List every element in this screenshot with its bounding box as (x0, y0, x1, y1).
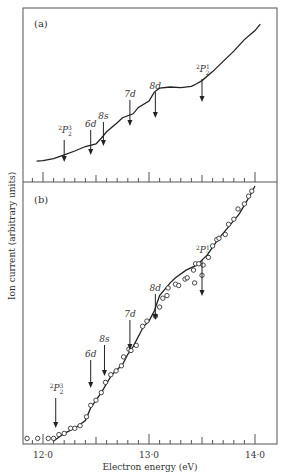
data-point (236, 207, 240, 211)
data-point (242, 202, 246, 206)
y-axis-label: Ion current (arbitrary units) (7, 172, 17, 300)
a-2p12-arrow-head (200, 96, 205, 102)
panel-b-label: (b) (34, 194, 48, 205)
data-point (109, 373, 113, 377)
plot-frame (23, 8, 277, 444)
data-point (57, 432, 61, 436)
data-point (129, 348, 133, 352)
data-point (36, 436, 40, 440)
data-point (166, 286, 170, 290)
data-point (210, 244, 214, 248)
x-tick-label-13: 13·0 (139, 450, 159, 460)
a-6d-arrow-head (88, 149, 93, 155)
data-point (197, 262, 201, 266)
b-2p12-label: 2P12 (196, 244, 210, 257)
b-8s-arrow-head (102, 370, 107, 376)
a-8s-arrow-head (101, 140, 106, 146)
b-2p32-arrow-head (53, 422, 58, 428)
b-8d-label: 8d (150, 283, 162, 293)
data-point (140, 324, 144, 328)
data-point (217, 236, 221, 240)
data-point (114, 369, 118, 373)
data-point (99, 390, 103, 394)
data-point (103, 380, 107, 384)
data-point (119, 364, 123, 368)
x-tick-label-14: 14·0 (245, 450, 265, 460)
a-8s-label: 8s (98, 111, 109, 121)
data-point (25, 436, 29, 440)
panel-b-fit-line (54, 186, 255, 441)
data-point (51, 436, 55, 440)
a-8d-label: 8d (150, 81, 162, 91)
panel-a-series (37, 24, 261, 161)
b-8s-label: 8s (99, 334, 110, 344)
data-point (250, 189, 254, 193)
data-point (177, 283, 181, 287)
a-2p12-label: 2P12 (196, 63, 210, 76)
data-point (226, 222, 230, 226)
data-point (134, 343, 138, 347)
data-point (223, 232, 227, 236)
b-6d-arrow-head (88, 382, 93, 388)
data-point (62, 431, 66, 435)
a-6d-label: 6d (85, 119, 97, 129)
data-point (84, 415, 88, 419)
outlier-point (165, 293, 169, 297)
b-6d-label: 6d (85, 349, 97, 359)
data-point (73, 426, 77, 430)
data-point (191, 268, 195, 272)
data-point (46, 436, 50, 440)
data-point (232, 217, 236, 221)
a-2p32-label: 2P32 (58, 124, 72, 137)
data-point (78, 424, 82, 428)
panel-a-label: (a) (34, 18, 48, 29)
data-point (68, 426, 72, 430)
b-2p12-arrow-head (200, 290, 205, 296)
b-7d-label: 7d (124, 309, 136, 319)
panel-b-series (25, 186, 255, 441)
data-point (161, 296, 165, 300)
a-7d-label: 7d (124, 89, 136, 99)
annotations: 2P326d8s7d8d2P122P326d8s7d8d2P12 (50, 63, 210, 428)
a-7d-arrow-head (127, 120, 132, 126)
outlier-point (192, 281, 196, 285)
data-point (145, 319, 149, 323)
chart-svg: (a) (b) Ion current (arbitrary units) 12… (0, 0, 282, 475)
x-axis-label: Electron energy (eV) (102, 462, 197, 472)
panel-a-ticks (32, 172, 255, 182)
a-2p32-arrow-head (62, 156, 67, 162)
x-tick-label-12: 12·0 (33, 450, 53, 460)
data-point (157, 305, 161, 309)
a-8d-arrow-head (153, 112, 158, 118)
data-point (89, 403, 93, 407)
b-2p32-label: 2P32 (50, 382, 64, 395)
data-point (246, 194, 250, 198)
data-point (121, 355, 125, 359)
data-point (94, 398, 98, 402)
panel-a-line (37, 24, 261, 161)
data-point (185, 276, 189, 280)
